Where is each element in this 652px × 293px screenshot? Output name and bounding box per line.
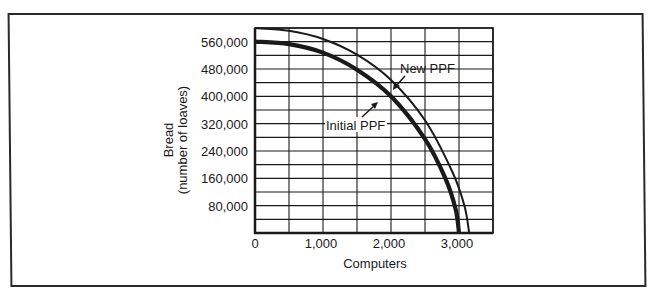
y-tick-labels: 80,000160,000240,000320,000400,000480,00… [201,35,248,214]
initial-ppf-label: Initial PPF [326,118,385,133]
ppf-chart: 80,000160,000240,000320,000400,000480,00… [0,0,652,293]
y-tick-label: 320,000 [201,117,248,132]
y-axis-title-line1: Bread [161,123,176,158]
y-tick-label: 160,000 [201,171,248,186]
y-tick-label: 400,000 [201,89,248,104]
x-tick-label: 3,000 [441,236,474,251]
y-axis-title-line2: (number of loaves) [175,86,190,194]
y-tick-label: 80,000 [208,199,248,214]
y-tick-label: 240,000 [201,144,248,159]
x-tick-label: 2,000 [373,236,406,251]
y-tick-label: 480,000 [201,62,248,77]
y-axis-title: Bread (number of loaves) [161,86,190,194]
x-tick-labels: 01,0002,0003,000 [251,236,473,251]
new-ppf-label: New PPF [400,61,455,76]
x-tick-label: 1,000 [305,236,338,251]
x-tick-label: 0 [251,236,258,251]
y-tick-label: 560,000 [201,35,248,50]
x-axis-title: Computers [343,256,407,271]
